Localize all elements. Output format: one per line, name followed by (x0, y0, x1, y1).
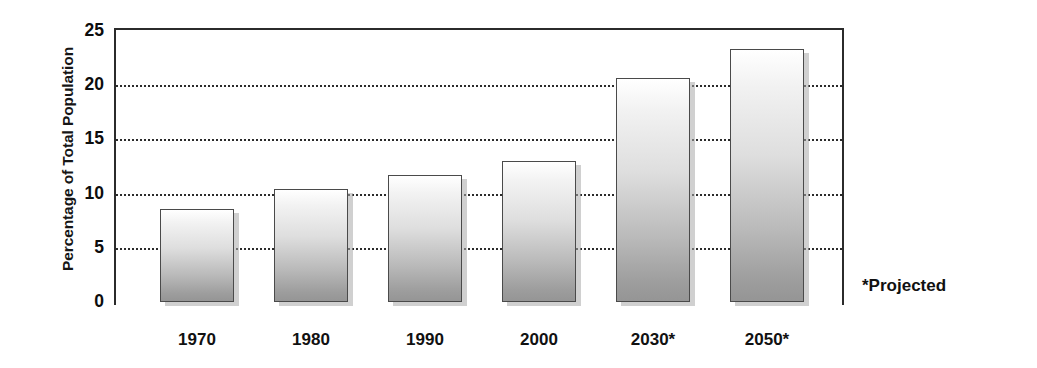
y-tick-label-20: 20 (62, 76, 104, 94)
y-tick-label-10: 10 (62, 185, 104, 203)
bar-chart: Percentage of Total Population 25 20 15 … (0, 0, 1037, 368)
bar-1970[interactable] (160, 209, 234, 302)
x-axis-label-1980: 1980 (268, 330, 354, 350)
x-axis-label-1970: 1970 (154, 330, 240, 350)
plot-top-border (114, 28, 844, 30)
y-tick-label-25: 25 (62, 22, 104, 40)
bar-1980[interactable] (274, 189, 348, 302)
x-axis-label-1990: 1990 (382, 330, 468, 350)
plot-right-border (842, 28, 844, 305)
plot-area: 25 20 15 10 5 0 1970 1980 1990 (114, 31, 844, 302)
bar-2000[interactable] (502, 161, 576, 302)
y-axis-line (114, 28, 116, 305)
bar-2050[interactable] (730, 49, 804, 302)
y-axis-title: Percentage of Total Population (59, 9, 77, 309)
x-axis-label-2030: 2030* (610, 330, 696, 350)
y-tick-label-15: 15 (62, 130, 104, 148)
bar-1990[interactable] (388, 175, 462, 302)
x-axis-label-2050: 2050* (724, 330, 810, 350)
projected-footnote: *Projected (862, 276, 946, 296)
y-tick-label-0: 0 (62, 293, 104, 311)
x-axis-label-2000: 2000 (496, 330, 582, 350)
bar-2030[interactable] (616, 78, 690, 302)
y-tick-label-5: 5 (62, 239, 104, 257)
